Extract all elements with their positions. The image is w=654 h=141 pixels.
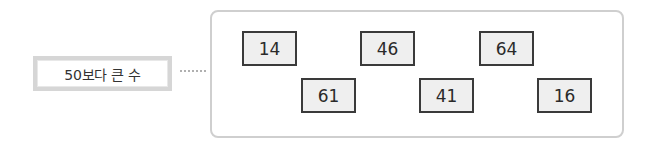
number-card[interactable]: 41: [419, 78, 474, 113]
category-label-text: 50보다 큰 수: [64, 64, 140, 84]
dotted-connector-line: [180, 70, 206, 72]
number-card[interactable]: 64: [479, 31, 534, 66]
number-value: 64: [496, 39, 518, 59]
number-value: 46: [377, 39, 399, 59]
number-card[interactable]: 61: [301, 78, 356, 113]
number-value: 14: [259, 39, 281, 59]
category-label-box: 50보다 큰 수: [33, 56, 172, 91]
number-card[interactable]: 16: [537, 78, 592, 113]
number-value: 16: [554, 86, 576, 106]
number-value: 41: [436, 86, 458, 106]
number-value: 61: [318, 86, 340, 106]
number-card[interactable]: 46: [360, 31, 415, 66]
number-card[interactable]: 14: [242, 31, 297, 66]
numbers-container: [210, 10, 624, 138]
